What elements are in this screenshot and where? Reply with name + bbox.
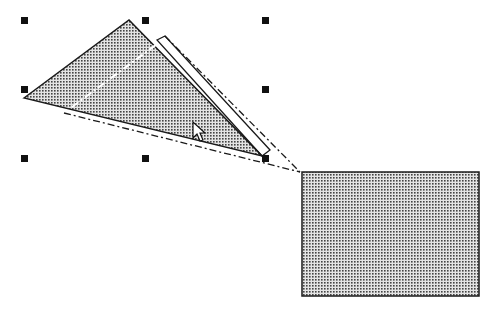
rectangle-shape[interactable] xyxy=(302,172,479,296)
selection-handle-middle-left[interactable] xyxy=(21,86,28,93)
selection-handle-bottom-middle[interactable] xyxy=(142,155,149,162)
triangle-shape[interactable] xyxy=(24,20,262,156)
selection-handle-top-middle[interactable] xyxy=(142,17,149,24)
selection-handle-top-left[interactable] xyxy=(21,17,28,24)
selection-handle-bottom-right[interactable] xyxy=(262,155,269,162)
selection-handle-bottom-left[interactable] xyxy=(21,155,28,162)
drawing-canvas[interactable] xyxy=(0,0,492,310)
selection-handle-top-right[interactable] xyxy=(262,17,269,24)
selection-handle-middle-right[interactable] xyxy=(262,86,269,93)
